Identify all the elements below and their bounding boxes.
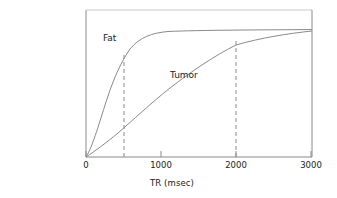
x-tick-label-0: 0 xyxy=(66,160,106,170)
x-tick-label-3000: 3000 xyxy=(291,160,331,170)
x-axis-ticks xyxy=(86,151,311,157)
series-curve-tumor xyxy=(86,31,312,157)
chart-figure: Longitudinal magnetization TR (msec) 0 1… xyxy=(0,0,337,198)
series-label-fat: Fat xyxy=(103,33,116,43)
series-curve-fat xyxy=(86,30,312,158)
x-tick-label-1000: 1000 xyxy=(141,160,181,170)
series-label-tumor: Tumor xyxy=(170,70,198,80)
x-axis-label: TR (msec) xyxy=(150,178,194,188)
x-tick-label-2000: 2000 xyxy=(216,160,256,170)
